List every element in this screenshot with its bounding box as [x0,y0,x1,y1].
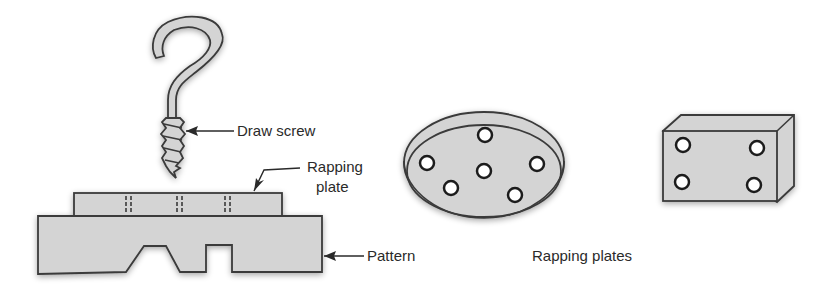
pattern-label: Pattern [367,247,415,264]
pattern-block [38,216,322,274]
pattern-callout: Pattern [324,247,415,264]
hook-icon [153,17,223,118]
rapping-plate-label-1: Rapping [307,158,363,175]
rapping-plates-diagram: Draw screw Rapping plate Pattern [0,0,824,296]
hole-icon [675,175,689,189]
rapping-plates-caption: Rapping plates [532,247,632,264]
circular-rapping-plate [404,112,564,218]
hole-icon [676,138,690,152]
rapping-plate-callout: Rapping plate [254,158,363,195]
rapping-plate-label-2: plate [316,178,349,195]
hole-icon [444,181,458,195]
rapping-plate [74,193,282,216]
hole-icon [478,128,492,142]
hole-icon [420,156,434,170]
draw-screw-callout: Draw screw [186,122,316,139]
draw-screw-label: Draw screw [237,122,316,139]
hole-icon [750,141,764,155]
pattern-assembly [38,193,322,274]
rectangular-rapping-plate [663,115,794,202]
hole-icon [747,178,761,192]
hole-icon [508,188,522,202]
draw-screw [153,17,223,178]
hole-icon [530,157,544,171]
hole-icon [477,164,491,178]
